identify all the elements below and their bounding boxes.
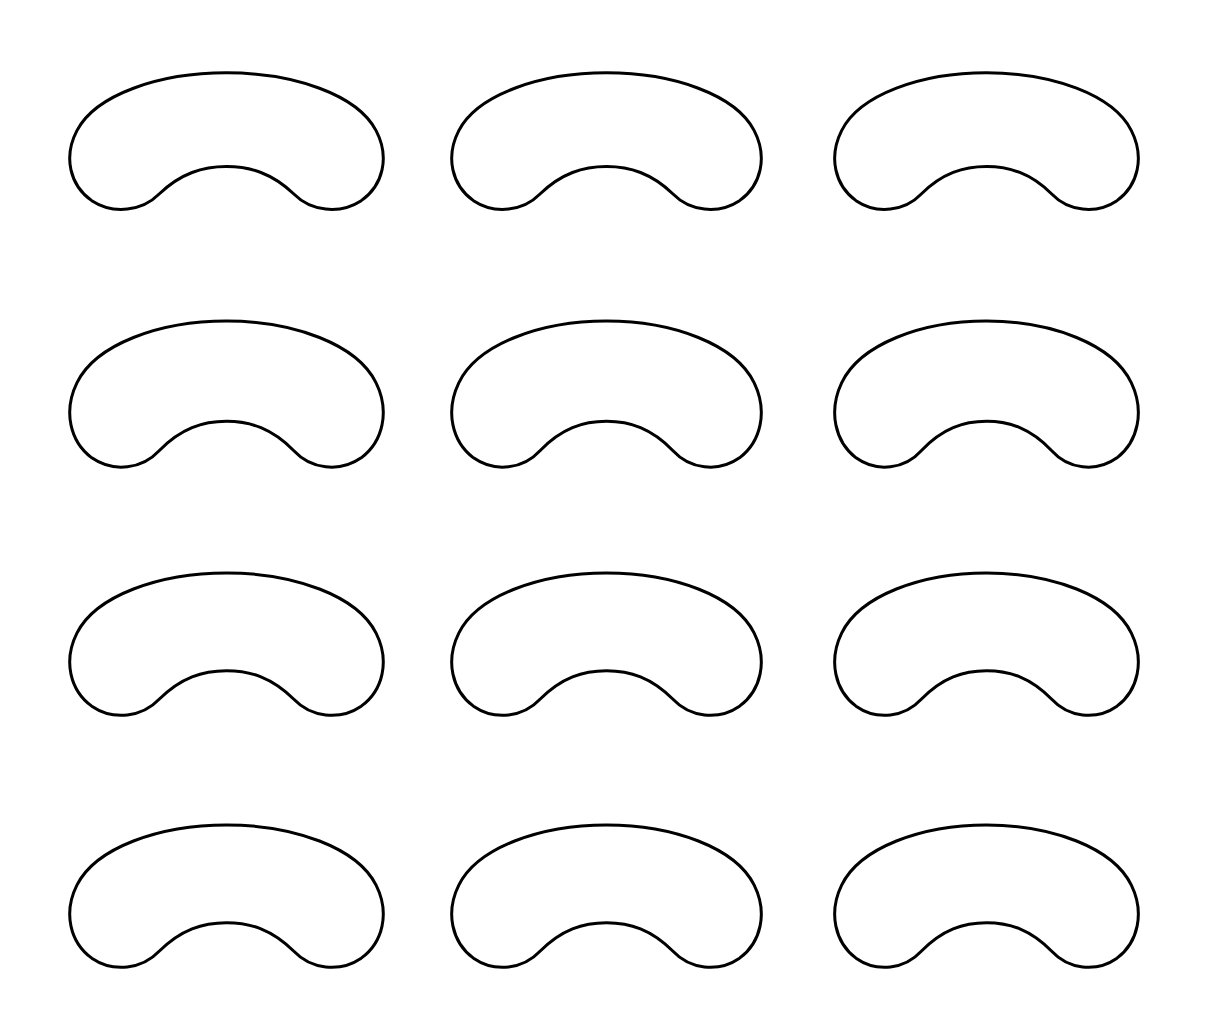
bean-outline-icon (68, 318, 385, 470)
bean-shape (68, 70, 385, 212)
bean-outline-icon (450, 570, 763, 718)
bean-shape (833, 822, 1140, 970)
bean-outline-icon (833, 822, 1140, 970)
bean-outline-icon (450, 70, 763, 212)
bean-outline-path (452, 573, 762, 715)
bean-shape (68, 822, 385, 970)
bean-outline-path (452, 73, 762, 210)
bean-outline-path (835, 825, 1139, 967)
bean-shape (68, 570, 385, 718)
bean-outline-path (70, 825, 384, 967)
bean-shape (833, 70, 1140, 212)
bean-outline-path (70, 73, 384, 210)
bean-outline-path (70, 321, 384, 467)
template-sheet (0, 0, 1208, 1034)
bean-shape-grid (0, 0, 1208, 1034)
bean-outline-icon (450, 822, 763, 970)
bean-outline-icon (68, 822, 385, 970)
bean-outline-path (452, 321, 762, 467)
bean-outline-icon (450, 318, 763, 470)
bean-outline-path (835, 321, 1139, 467)
bean-outline-icon (833, 570, 1140, 718)
bean-outline-icon (68, 570, 385, 718)
bean-shape (68, 318, 385, 470)
bean-shape (833, 570, 1140, 718)
bean-outline-icon (833, 70, 1140, 212)
bean-shape (450, 570, 763, 718)
bean-shape (450, 822, 763, 970)
bean-outline-path (835, 73, 1139, 210)
bean-shape (450, 70, 763, 212)
bean-outline-path (70, 573, 384, 715)
bean-outline-icon (833, 318, 1140, 470)
bean-shape (450, 318, 763, 470)
bean-outline-path (835, 573, 1139, 715)
bean-outline-icon (68, 70, 385, 212)
bean-outline-path (452, 825, 762, 967)
bean-shape (833, 318, 1140, 470)
